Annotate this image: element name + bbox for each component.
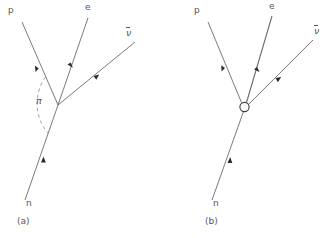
panel-b-caption: (b) [205, 217, 218, 226]
panel-b-vertex-circle [240, 102, 249, 111]
panel-a-proton-arrowhead [35, 65, 39, 72]
panel-a-neutron-line [25, 105, 58, 200]
figure-root: p e ν π n (a) p e ν n (b) [0, 0, 331, 238]
panel-b-proton-arrowhead [221, 65, 225, 71]
panel-a-label-electron: e [85, 3, 91, 12]
panel-a-lines [22, 18, 135, 200]
panel-b-antineutrino-overbar: ν [314, 25, 319, 36]
panel-a-proton-line [22, 22, 58, 105]
panel-b-proton-line [208, 22, 242, 103]
panel-b-electron-line [247, 16, 273, 103]
panel-a-label-antineutrino: ν [126, 27, 131, 38]
panel-a-electron-line [58, 18, 88, 105]
panel-a-label-neutron: n [26, 199, 32, 208]
panel-a-pion-label: π [36, 96, 42, 106]
diagram-canvas [0, 0, 331, 238]
panel-b-neutron-arrowhead [228, 157, 233, 163]
panel-a-neutron-arrowhead [41, 157, 46, 163]
panel-a-antineutrino-line [58, 42, 135, 105]
panel-b-antineutrino-line [249, 40, 314, 105]
panel-b-label-neutron: n [213, 199, 219, 208]
panel-b-label-proton: p [194, 6, 200, 15]
panel-b-lines [208, 16, 313, 200]
panel-a-antineutrino-overbar: ν [126, 27, 131, 38]
panel-b-label-electron: e [269, 2, 275, 11]
panel-a-label-proton: p [8, 6, 14, 15]
panel-b-label-antineutrino: ν [314, 25, 319, 36]
panel-b-antineutrino-arrowhead [276, 77, 282, 82]
panel-b-electron-arrowhead [254, 67, 260, 72]
panel-b-neutron-line [212, 112, 244, 201]
panel-a-caption: (a) [17, 217, 30, 226]
